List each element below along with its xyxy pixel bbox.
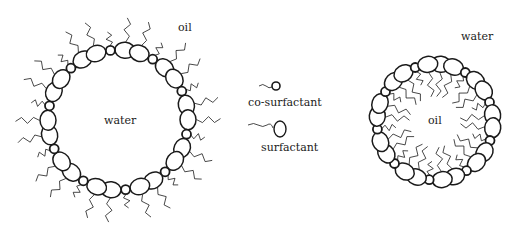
- surfactant-tail: [86, 195, 94, 218]
- cosurfactant-tail: [398, 151, 409, 161]
- legend: [248, 82, 286, 137]
- surfactant-tail: [427, 73, 434, 97]
- surfactant-tail: [418, 147, 427, 169]
- cosurfactant-tail: [38, 149, 50, 157]
- cosurfactant-tail: [106, 32, 112, 46]
- cosurfactant-legend-tail: [259, 85, 272, 88]
- cosurfactant-tail: [416, 72, 423, 86]
- cosurfactant-head: [182, 130, 191, 139]
- cosurfactant-tail: [472, 103, 486, 110]
- cosurfactant-head: [177, 87, 186, 96]
- surfactant-tail: [18, 135, 41, 143]
- cosurfactant-tail: [473, 134, 486, 141]
- surfactant-tail: [388, 105, 410, 114]
- surfactant-legend-tail: [248, 124, 273, 129]
- cosurfactant-tail: [455, 76, 464, 87]
- cosurfactant-tail: [427, 161, 433, 175]
- surfactant-tail: [36, 166, 55, 181]
- cosurfactant-tail: [155, 43, 163, 56]
- cosurfactant-tail: [389, 93, 400, 102]
- cosurfactant-tail: [124, 194, 130, 208]
- surfactant-head: [40, 110, 56, 130]
- surfactant-tail: [454, 139, 471, 156]
- cosurfactant-tail: [73, 185, 81, 198]
- surfactant-tail: [34, 61, 54, 74]
- surfactant-legend-label: surfactant: [261, 142, 318, 153]
- cosurfactant-tail: [191, 134, 205, 141]
- surfactant-tail: [442, 75, 451, 97]
- surfactant-tail: [386, 115, 410, 122]
- surfactant-tail: [393, 137, 414, 149]
- cosurfactant-tail: [168, 175, 178, 185]
- cosurfactant-legend-label: co-surfactant: [248, 97, 322, 108]
- left-inner-label: water: [104, 115, 136, 126]
- cosurfactant-tail: [31, 100, 45, 107]
- cosurfactant-tail: [456, 155, 464, 167]
- surfactant-head: [180, 110, 196, 130]
- surfactant-tail: [50, 179, 65, 198]
- surfactant-tail: [85, 23, 94, 46]
- surfactant-tail: [105, 198, 112, 222]
- surfactant-tail: [389, 130, 412, 139]
- surfactant-tail: [436, 73, 443, 97]
- cosurfactant-head: [50, 144, 59, 153]
- surfactant-tail: [195, 97, 218, 105]
- microemulsion-diagram: [0, 0, 527, 234]
- surfactant-tail: [190, 152, 212, 162]
- surfactant-tail: [124, 18, 131, 42]
- surfactant-tail: [436, 147, 443, 171]
- cosurfactant-legend-head: [272, 82, 280, 90]
- surfactant-tail: [170, 43, 185, 62]
- surfactant-tail: [182, 166, 202, 179]
- right-inner-label: oil: [428, 115, 442, 126]
- surfactant-tail: [142, 22, 150, 45]
- surfactant-tail: [460, 114, 484, 121]
- surfactant-tail: [400, 87, 417, 104]
- left-outer-label: oil: [178, 22, 192, 33]
- surfactant-tail: [452, 87, 469, 104]
- surfactant-tail: [142, 195, 151, 218]
- surfactant-tail: [16, 117, 40, 123]
- cosurfactant-tail: [382, 124, 396, 130]
- surfactant-tail: [443, 146, 452, 169]
- surfactant-tail: [181, 59, 200, 74]
- cosurfactant-tail: [186, 83, 198, 91]
- surfactant-tail: [197, 117, 221, 123]
- surfactant-legend-head: [274, 121, 286, 137]
- surfactant-tail: [24, 78, 46, 88]
- cosurfactant-head: [121, 185, 130, 194]
- surfactant-tail: [158, 188, 171, 208]
- cosurfactant-head: [106, 46, 115, 55]
- surfactant-tail: [66, 32, 79, 52]
- cosurfactant-head: [45, 101, 54, 110]
- right-outer-label: water: [461, 31, 493, 42]
- surfactant-tail: [461, 123, 485, 130]
- cosurfactant-tail: [58, 55, 68, 65]
